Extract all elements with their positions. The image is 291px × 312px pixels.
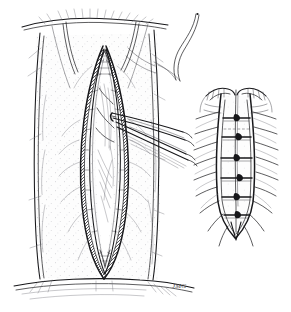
drain-tip-icon xyxy=(196,13,198,15)
artist-signature: JMG xyxy=(172,282,187,290)
illustration-canvas: JMG xyxy=(0,0,291,312)
surgical-illustration-figure: JMG xyxy=(0,0,291,312)
